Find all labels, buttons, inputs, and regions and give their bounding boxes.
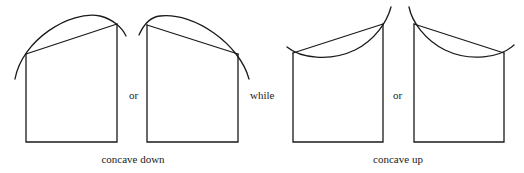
panel-concave-down-rising xyxy=(15,15,126,142)
chord-line xyxy=(26,24,117,54)
concave-down-caption: concave down xyxy=(101,153,165,165)
chord-line xyxy=(147,25,238,54)
trapezoid-outline xyxy=(293,24,383,142)
concave-up-curve xyxy=(409,7,514,57)
trapezoid-outline xyxy=(26,24,117,142)
panel-concave-down-falling xyxy=(139,16,249,142)
concavity-trapezoid-diagram: or while or concave down concave up xyxy=(0,0,524,173)
panel-concave-up-rising xyxy=(287,7,391,142)
trapezoid-outline xyxy=(414,24,504,142)
chord-line xyxy=(293,24,383,53)
trapezoid-outline xyxy=(147,25,238,142)
panel-concave-up-falling xyxy=(409,7,514,142)
or-label-2: or xyxy=(393,89,403,101)
concave-down-curve xyxy=(15,15,126,79)
concave-up-caption: concave up xyxy=(373,153,423,165)
while-label: while xyxy=(250,89,275,101)
concave-down-curve xyxy=(139,16,249,79)
or-label-1: or xyxy=(129,89,139,101)
